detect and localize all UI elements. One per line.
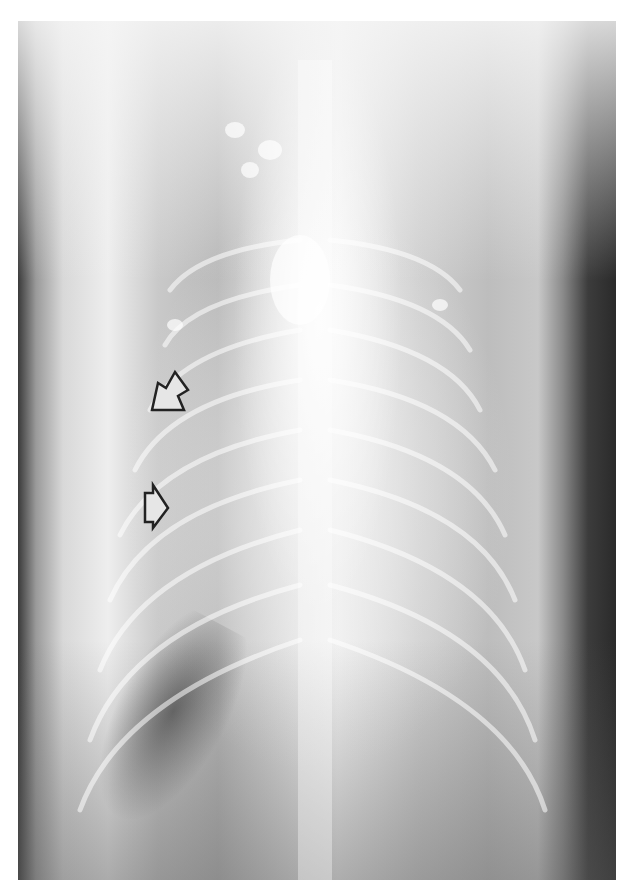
annotation-layer: [0, 0, 634, 893]
arrow-annotation-1: [152, 372, 188, 410]
arrow-annotation-2: [145, 485, 168, 528]
